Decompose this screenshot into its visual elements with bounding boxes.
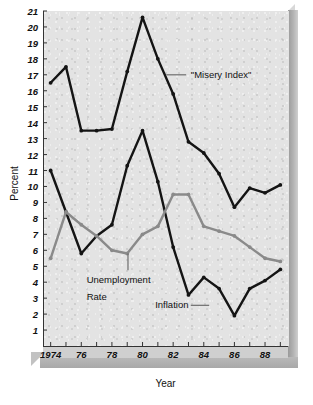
data-point [156, 224, 160, 228]
data-point [125, 70, 129, 74]
data-point [217, 287, 221, 291]
data-point [233, 314, 237, 318]
y-axis-tick-label: 5 [33, 261, 38, 272]
y-axis-tick-label: 8 [33, 213, 38, 224]
y-axis-tick-label: 19 [27, 37, 38, 48]
data-point [171, 193, 175, 197]
chart-canvas [0, 0, 313, 405]
series-line-2 [51, 194, 281, 261]
annotation-inflation: Inflation [155, 299, 188, 310]
data-point [263, 256, 267, 260]
data-point [187, 193, 191, 197]
data-point [217, 229, 221, 233]
data-point [156, 57, 160, 61]
data-point [187, 293, 191, 297]
x-axis-title: Year [43, 378, 288, 389]
data-point [248, 186, 252, 190]
data-point [171, 92, 175, 96]
data-point [233, 234, 237, 238]
chart-figure: 123456789101112131415161718192021 197476… [0, 0, 313, 405]
data-point [202, 151, 206, 155]
annotation-misery-index: "Misery Index" [191, 69, 252, 80]
x-axis-tick-labels: 197476788082848688 [43, 349, 288, 367]
x-axis-tick-label: 82 [168, 349, 179, 360]
y-axis-tick-label: 21 [27, 6, 38, 17]
y-axis-tick-label: 4 [33, 277, 38, 288]
data-point [248, 245, 252, 249]
y-axis-tick-label: 7 [33, 229, 38, 240]
x-axis-tick-label: 1974 [40, 349, 61, 360]
annotation-unemployment-rate-line2: Rate [87, 291, 107, 302]
y-axis-tick-label: 17 [27, 69, 38, 80]
data-point [110, 223, 114, 227]
y-axis-tick-label: 18 [27, 53, 38, 64]
data-point [233, 205, 237, 209]
y-axis-tick-label: 14 [27, 117, 38, 128]
x-axis-tick-label: 84 [198, 349, 209, 360]
data-point [278, 268, 282, 272]
data-point [125, 164, 129, 168]
data-point [248, 287, 252, 291]
data-point [278, 183, 282, 187]
data-point [79, 252, 83, 256]
data-point [95, 234, 99, 238]
y-axis-tick-label: 11 [28, 165, 38, 176]
y-axis-tick-label: 13 [27, 133, 38, 144]
y-axis-tick-label: 10 [27, 181, 38, 192]
data-point [110, 248, 114, 252]
annotation-unemployment-rate-line1: Unemployment [87, 274, 151, 285]
x-axis-tick-label: 88 [260, 349, 271, 360]
data-point [278, 260, 282, 264]
series-line-0 [51, 17, 281, 207]
data-point [49, 169, 53, 173]
y-axis-title: Percent [9, 149, 20, 219]
y-axis-tick-label: 20 [27, 21, 38, 32]
y-axis-tick-label: 3 [33, 293, 38, 304]
data-point [141, 15, 145, 19]
data-point [95, 129, 99, 133]
x-axis-tick-label: 80 [137, 349, 148, 360]
y-axis-tick-label: 15 [27, 101, 38, 112]
data-point [187, 140, 191, 144]
series-line-1 [51, 131, 281, 316]
data-point [64, 65, 68, 69]
x-axis-tick-label: 86 [229, 349, 240, 360]
y-axis-tick-label: 12 [27, 149, 38, 160]
y-axis-tick-label: 1 [33, 325, 38, 336]
data-point [49, 81, 53, 85]
data-point [79, 223, 83, 227]
data-point [79, 129, 83, 133]
y-axis-tick-label: 16 [27, 85, 38, 96]
y-axis-tick-labels: 123456789101112131415161718192021 [0, 0, 43, 360]
x-axis-tick-label: 76 [76, 349, 87, 360]
data-point [202, 224, 206, 228]
x-axis-tick-label: 78 [107, 349, 118, 360]
data-point [141, 232, 145, 236]
data-point [156, 180, 160, 184]
data-point [171, 245, 175, 249]
data-point [263, 191, 267, 195]
data-point [110, 127, 114, 131]
y-axis-tick-label: 6 [33, 245, 38, 256]
data-point [217, 172, 221, 176]
y-axis-tick-label: 9 [33, 197, 38, 208]
data-point [64, 210, 68, 214]
data-point [263, 279, 267, 283]
data-point [141, 129, 145, 133]
data-point [49, 256, 53, 260]
y-axis-tick-label: 2 [33, 309, 38, 320]
data-point [202, 276, 206, 280]
